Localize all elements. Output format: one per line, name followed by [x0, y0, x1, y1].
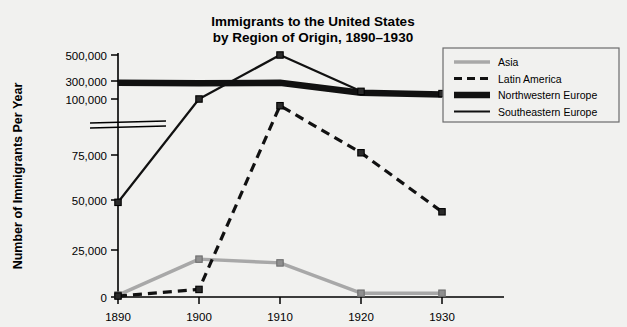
series-marker-asia	[439, 290, 445, 296]
y-tick-label: 300,000	[65, 76, 107, 88]
x-tick-label: 1920	[348, 311, 374, 323]
axis-break-line-upper	[90, 121, 166, 123]
series-marker-southeastern-europe	[358, 88, 364, 94]
legend-label-latin-america: Latin America	[498, 73, 562, 85]
series-marker-southeastern-europe	[115, 199, 121, 205]
immigration-line-chart: Immigrants to the United Statesby Region…	[0, 0, 627, 327]
series-marker-latin-america	[439, 209, 445, 215]
series-marker-latin-america	[358, 150, 364, 156]
series-marker-southeastern-europe	[277, 52, 283, 58]
y-tick-label: 50,000	[72, 195, 107, 207]
legend-label-asia: Asia	[498, 56, 519, 68]
series-line-latin-america	[118, 106, 442, 296]
series-marker-latin-america	[196, 286, 202, 292]
legend-label-northwestern-europe: Northwestern Europe	[498, 89, 597, 101]
series-marker-southeastern-europe	[196, 96, 202, 102]
legend-label-southeastern-europe: Southeastern Europe	[498, 106, 597, 118]
series-marker-latin-america	[115, 293, 121, 299]
series-marker-asia	[277, 260, 283, 266]
series-marker-asia	[196, 256, 202, 262]
series-line-southeastern-europe	[118, 55, 442, 202]
axis-break-line-lower	[90, 126, 166, 128]
y-tick-label: 25,000	[72, 245, 107, 257]
y-axis-label: Number of Immigrants Per Year	[11, 83, 25, 270]
series-marker-asia	[358, 290, 364, 296]
x-tick-label: 1930	[429, 311, 455, 323]
series-marker-latin-america	[277, 103, 283, 109]
y-tick-label: 100,000	[65, 94, 107, 106]
chart-title-line-1: Immigrants to the United States	[211, 14, 414, 29]
chart-title-line-2: by Region of Origin, 1890–1930	[213, 30, 413, 45]
y-tick-label: 500,000	[65, 50, 107, 62]
chart-container: Immigrants to the United Statesby Region…	[0, 0, 627, 327]
x-tick-label: 1900	[186, 311, 212, 323]
x-tick-label: 1910	[267, 311, 293, 323]
y-tick-label: 75,000	[72, 150, 107, 162]
y-tick-label: 0	[101, 292, 107, 304]
x-tick-label: 1890	[105, 311, 131, 323]
